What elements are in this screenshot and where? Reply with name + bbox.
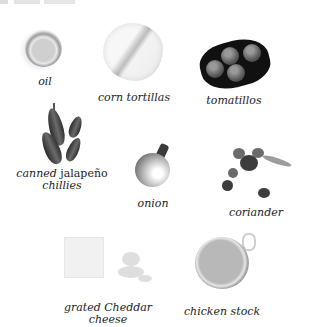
- chicken-stock-jug-image: [195, 237, 249, 289]
- grated-cheddar-cheese-label-line2: cheese: [58, 314, 158, 326]
- tomatillo-icon: [206, 60, 224, 78]
- tomatillo-icon: [227, 64, 245, 82]
- grated-cheese-icon: [138, 275, 152, 282]
- chicken-stock-label: chicken stock: [182, 306, 262, 318]
- oil-bowl-image: [25, 30, 62, 67]
- onion-image: [135, 153, 170, 187]
- coriander-stem-icon: [262, 154, 292, 169]
- grated-cheese-icon: [122, 252, 140, 266]
- chilli-stem-icon: [53, 103, 55, 110]
- tomatillos-label: tomatillos: [204, 95, 264, 107]
- chilli-icon: [63, 136, 83, 163]
- cropped-heading-fragment: [0, 0, 80, 4]
- canned-jalapeno-chillies-label-line2: chillies: [14, 180, 110, 192]
- onion-label: onion: [130, 198, 176, 210]
- tomatillo-icon: [243, 44, 261, 62]
- coriander-leaf-icon: [228, 168, 238, 178]
- corn-tortillas-image: [103, 23, 163, 81]
- oil-label: oil: [30, 76, 60, 88]
- chilli-icon: [67, 115, 85, 139]
- coriander-leaf-icon: [258, 188, 270, 198]
- cheddar-block-image: [64, 237, 104, 278]
- corn-tortillas-label: corn tortillas: [96, 92, 172, 104]
- coriander-label: coriander: [226, 207, 286, 219]
- coriander-leaf-icon: [233, 148, 245, 159]
- coriander-leaf-icon: [222, 180, 233, 191]
- tomatillo-icon: [221, 47, 239, 65]
